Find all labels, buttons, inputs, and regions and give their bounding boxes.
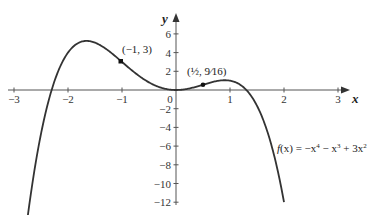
- function-label: f(x) = −x4 − x3 + 3x2: [277, 142, 367, 155]
- y-tick-label: 6: [166, 28, 172, 40]
- x-tick-label: −3: [8, 93, 20, 105]
- x-tick-label: 1: [227, 93, 233, 105]
- x-axis-arrow-icon: [341, 87, 350, 94]
- y-ticks: 642−2−4−6−8−10−12: [154, 28, 179, 208]
- point-label-neg1-3: (−1, 3): [122, 43, 152, 56]
- y-tick-label: −2: [159, 103, 171, 115]
- point-marker-half: [201, 83, 206, 88]
- x-axis-label: x: [351, 91, 359, 106]
- point-marker-neg1-3: [119, 59, 124, 64]
- x-tick-label: −1: [116, 93, 128, 105]
- y-tick-label: −6: [159, 140, 171, 152]
- y-tick-label: −4: [159, 121, 171, 133]
- y-tick-label: 2: [166, 65, 172, 77]
- x-tick-label: 3: [335, 93, 341, 105]
- y-tick-label: −8: [159, 159, 171, 171]
- y-axis-label: y: [160, 11, 168, 26]
- y-axis-arrow-icon: [173, 13, 180, 22]
- point-label-half: (½, 9⁄16): [187, 65, 227, 78]
- y-tick-label: −10: [154, 178, 172, 190]
- x-tick-label: −2: [62, 93, 74, 105]
- chart: −3−2−10123 642−2−4−6−8−10−12 x y (−1, 3)…: [0, 0, 391, 215]
- x-tick-label: 2: [281, 93, 287, 105]
- y-tick-label: −12: [154, 196, 171, 208]
- y-tick-label: 4: [166, 47, 172, 59]
